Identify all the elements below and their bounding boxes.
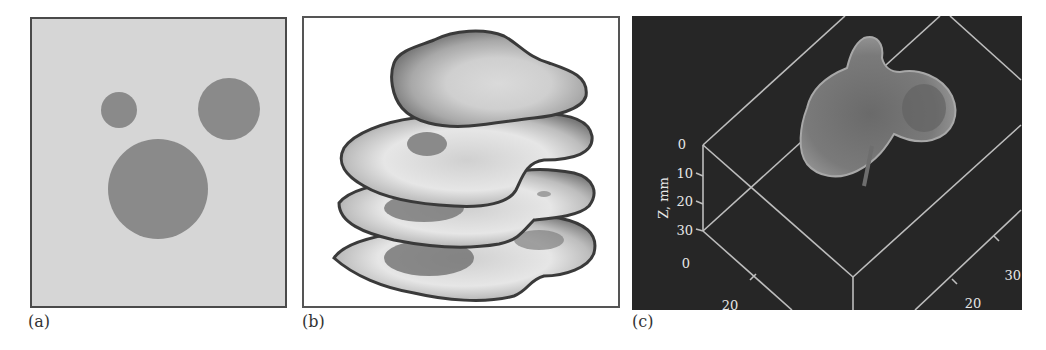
large-circle-inclusion: [108, 139, 208, 239]
z-axis-label: Z, mm: [656, 177, 671, 219]
z-tick-10: 10: [676, 166, 693, 181]
caption-b: (b): [302, 312, 325, 331]
panel-b-slice-stack: [302, 16, 620, 308]
y-tick-30: 30: [1004, 268, 1021, 283]
z-tick-30: 30: [676, 223, 693, 238]
slice-stack-graphic: [304, 18, 618, 306]
reconstructed-object: [801, 37, 956, 186]
z-tick-20: 20: [676, 194, 693, 209]
y-tick-20: 20: [965, 296, 982, 310]
x-tick-20: 20: [722, 298, 739, 310]
panel-a-phantom: [30, 17, 287, 308]
right-circle-inclusion: [198, 78, 260, 140]
caption-c: (c): [632, 312, 653, 331]
x-tick-0: 0: [682, 256, 690, 271]
small-circle-inclusion: [101, 92, 137, 128]
slice-layer-1: [392, 31, 587, 126]
panel-c-3d-render: 0 10 20 30 0 20 30 20 Z, mm: [632, 16, 1022, 310]
phantom-circles-graphic: [32, 19, 285, 306]
z-tick-0: 0: [678, 137, 686, 152]
caption-a: (a): [28, 312, 50, 331]
render-3d-graphic: 0 10 20 30 0 20 30 20 Z, mm: [632, 16, 1022, 310]
